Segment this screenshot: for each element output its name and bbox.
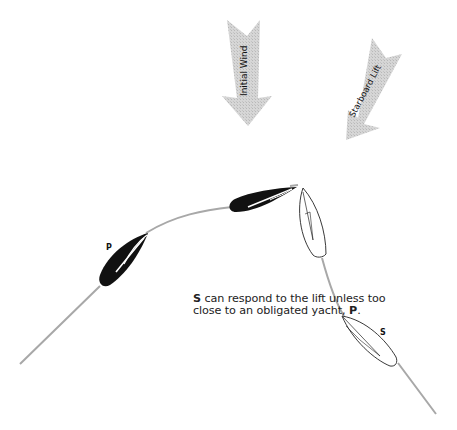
initial-wind-arrow: Initial Wind <box>222 20 272 126</box>
port-boat-track <box>20 185 298 364</box>
port-boat-upper <box>229 187 297 212</box>
diagram-canvas: Initial Wind Starboard Lift P S <box>0 0 457 430</box>
port-boat-label: P <box>106 243 112 252</box>
starboard-boat-lower <box>342 316 397 366</box>
caption-obligated: P <box>349 304 357 317</box>
caption-line-2-text: close to an obligated yacht, <box>193 304 349 317</box>
caption-line-2: close to an obligated yacht, P. <box>193 305 386 317</box>
starboard-lift-arrow: Starboard Lift <box>346 38 402 140</box>
caption-period: . <box>357 304 360 317</box>
starboard-boat-label: S <box>380 328 386 337</box>
port-boat-lower <box>99 233 148 286</box>
initial-wind-label: Initial Wind <box>239 46 249 96</box>
caption: S can respond to the lift unless too clo… <box>193 293 386 316</box>
starboard-boat-upper <box>300 188 326 257</box>
